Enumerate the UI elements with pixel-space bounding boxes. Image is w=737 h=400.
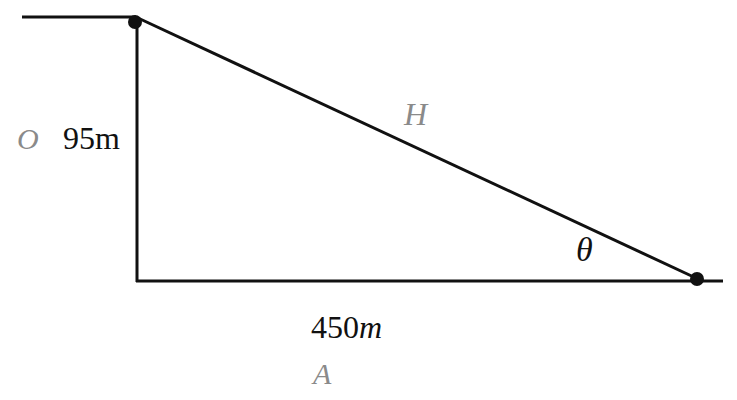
- angle-theta-label: θ: [576, 233, 593, 267]
- adjacent-value-label: 450m: [311, 311, 382, 343]
- adjacent-value-number: 450: [311, 309, 359, 345]
- hypotenuse-letter-label: H: [404, 98, 427, 130]
- opposite-value-label: 95m: [63, 122, 120, 154]
- adjacent-value-unit: m: [359, 309, 382, 345]
- adjacent-letter-label: A: [313, 359, 331, 389]
- opposite-letter-label: O: [17, 124, 39, 154]
- bottom-vertex-dot: [690, 272, 704, 286]
- hypotenuse: [138, 18, 698, 279]
- top-vertex-dot: [128, 15, 142, 29]
